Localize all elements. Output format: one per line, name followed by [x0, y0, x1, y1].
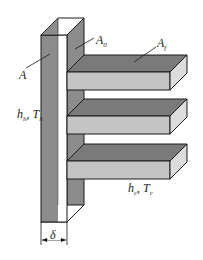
wall-front-white — [58, 35, 67, 222]
label-thickness: δ — [50, 228, 56, 242]
dim-arrowhead-left — [42, 238, 47, 242]
fin-front-face — [67, 72, 170, 90]
finned-wall-diagram: A A0 Af hh, Th hc, Tc δ — [0, 0, 203, 260]
fin-top-face — [67, 55, 187, 72]
fin-front-face — [67, 161, 170, 179]
label-base-area: A0 — [95, 33, 107, 49]
dim-arrowhead-right — [61, 238, 66, 242]
wall-top-left-shade — [41, 18, 58, 35]
fin-3 — [67, 144, 187, 179]
fin-top-face — [67, 144, 187, 161]
wall-front-dark — [41, 35, 58, 222]
label-fin-area: Af — [156, 36, 167, 52]
fin-top-face — [67, 99, 187, 116]
label-wall-area: A — [18, 68, 27, 82]
label-hot-side: hh, Th — [17, 107, 43, 123]
fin-front-face — [67, 116, 170, 134]
fin-1 — [67, 55, 187, 90]
fin-2 — [67, 99, 187, 134]
label-cold-side: hc, Tc — [128, 181, 154, 197]
